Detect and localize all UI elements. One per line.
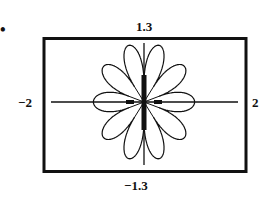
center-right-mark (154, 100, 162, 104)
center-left-mark (126, 100, 134, 104)
center-thick-segment (142, 75, 147, 130)
plot-area (0, 0, 266, 197)
